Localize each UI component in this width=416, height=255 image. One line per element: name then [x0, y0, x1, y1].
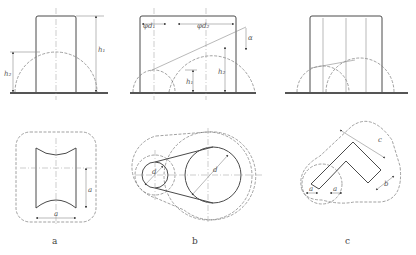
panel-a-elevation	[10, 8, 108, 100]
label-a-plan-width: a	[54, 210, 58, 218]
heap-boundary	[132, 132, 256, 220]
large-heap-arc	[169, 56, 255, 92]
label-h1-b: h₁	[186, 78, 194, 86]
technical-drawing: h₂ h₁ φd₁ φd₂ α h₁ h₂	[0, 0, 416, 255]
label-h2-a: h₂	[4, 70, 12, 78]
large-diameter-dimension	[192, 155, 228, 195]
label-c-arm: c	[378, 136, 382, 144]
slope-line	[150, 27, 246, 71]
label-b-large-d: d	[213, 166, 218, 174]
label-d1: φd₁	[143, 22, 155, 30]
label-h2-b: h₂	[218, 68, 226, 76]
label-c-right: b	[384, 180, 389, 188]
label-alpha: α	[248, 34, 253, 42]
label-a-plan-height: a	[88, 186, 92, 194]
label-h1-a: h₁	[98, 46, 106, 54]
heap-boundary	[301, 121, 401, 203]
arm-length-dimension	[340, 130, 385, 158]
label-c-left: a	[309, 185, 313, 193]
caption-a: a	[52, 236, 58, 246]
panel-c-plan	[301, 121, 401, 204]
label-d2: φd₂	[197, 22, 209, 30]
caption-b: b	[192, 236, 198, 246]
panel-c-elevation	[285, 16, 408, 93]
label-c-mid: a	[333, 185, 337, 193]
caption-c: c	[345, 236, 350, 246]
label-b-small-d: d	[152, 168, 157, 176]
right-heap-arc	[326, 58, 394, 92]
